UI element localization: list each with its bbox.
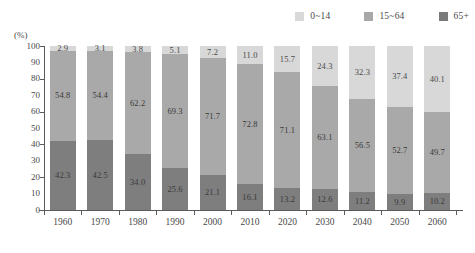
bar-value-label: 11.2 — [355, 197, 370, 206]
bar-segment-65-plus[interactable]: 3.1 — [87, 46, 113, 51]
y-axis-tick-label: 0 — [6, 206, 40, 215]
bar-segment-0-14[interactable]: 34.0 — [125, 154, 151, 210]
bar-value-label: 3.1 — [95, 44, 106, 53]
bar-value-label: 10.2 — [430, 197, 445, 206]
x-axis-tick-mark — [194, 211, 195, 215]
legend-label: 65+ — [454, 11, 469, 21]
bar-segment-15-64[interactable]: 52.7 — [387, 107, 413, 193]
bar-group-2020[interactable]: 13.271.115.7 — [274, 46, 300, 210]
bar-segment-15-64[interactable]: 54.8 — [50, 51, 76, 141]
legend-label: 15~64 — [379, 11, 404, 21]
x-axis-tick-mark — [344, 211, 345, 215]
chart-legend: 0~1415~6465+ — [0, 9, 475, 23]
x-axis-tick-mark — [119, 211, 120, 215]
x-axis-tick-mark — [456, 211, 457, 215]
legend-swatch-icon — [364, 12, 373, 21]
y-axis-tick-mark — [40, 46, 44, 47]
y-axis-unit-label: (%) — [14, 30, 28, 40]
bar-segment-15-64[interactable]: 62.2 — [125, 52, 151, 154]
bar-segment-65-plus[interactable]: 5.1 — [162, 46, 188, 54]
bar-group-1990[interactable]: 25.669.35.1 — [162, 46, 188, 210]
bar-segment-15-64[interactable]: 71.1 — [274, 72, 300, 189]
bar-segment-0-14[interactable]: 16.1 — [237, 184, 263, 210]
x-axis-tick-mark — [269, 211, 270, 215]
bar-value-label: 3.8 — [132, 45, 143, 54]
bar-segment-65-plus[interactable]: 37.4 — [387, 46, 413, 107]
bar-segment-0-14[interactable]: 42.5 — [87, 140, 113, 210]
bar-value-label: 52.7 — [392, 146, 407, 155]
x-axis-tick-mark — [81, 211, 82, 215]
bar-segment-65-plus[interactable]: 11.0 — [237, 46, 263, 64]
bar-group-2010[interactable]: 16.172.811.0 — [237, 46, 263, 210]
plot-area: 42.354.82.942.554.43.134.062.23.825.669.… — [44, 46, 456, 210]
bar-segment-65-plus[interactable]: 32.3 — [349, 46, 375, 99]
bar-value-label: 72.8 — [242, 120, 257, 129]
bar-value-label: 69.3 — [167, 107, 182, 116]
bar-segment-65-plus[interactable]: 24.3 — [312, 46, 338, 86]
population-age-structure-chart: 0~1415~6465+ (%) 1009080706050403020100 … — [0, 0, 475, 253]
bar-group-1960[interactable]: 42.354.82.9 — [50, 46, 76, 210]
y-axis-tick-mark — [40, 144, 44, 145]
bar-group-2050[interactable]: 9.952.737.4 — [387, 46, 413, 210]
bar-segment-15-64[interactable]: 69.3 — [162, 54, 188, 168]
bar-segment-15-64[interactable]: 49.7 — [424, 112, 450, 194]
bar-value-label: 49.7 — [430, 148, 445, 157]
bar-value-label: 37.4 — [392, 72, 407, 81]
bar-value-label: 40.1 — [430, 75, 445, 84]
bar-value-label: 25.6 — [167, 185, 182, 194]
y-axis-tick-label: 30 — [6, 156, 40, 165]
bar-segment-65-plus[interactable]: 7.2 — [200, 46, 226, 58]
bar-segment-15-64[interactable]: 56.5 — [349, 99, 375, 192]
legend-label: 0~14 — [310, 11, 330, 21]
bar-segment-0-14[interactable]: 9.9 — [387, 194, 413, 210]
bar-segment-65-plus[interactable]: 15.7 — [274, 46, 300, 72]
bar-value-label: 9.9 — [394, 198, 405, 207]
bar-value-label: 32.3 — [355, 68, 370, 77]
bar-segment-65-plus[interactable]: 3.8 — [125, 46, 151, 52]
bar-segment-0-14[interactable]: 42.3 — [50, 141, 76, 210]
bar-segment-0-14[interactable]: 10.2 — [424, 193, 450, 210]
bar-segment-15-64[interactable]: 63.1 — [312, 86, 338, 189]
bar-value-label: 62.2 — [130, 99, 145, 108]
legend-item-65-plus[interactable]: 65+ — [439, 11, 469, 21]
y-axis-tick-label: 70 — [6, 91, 40, 100]
bar-segment-15-64[interactable]: 72.8 — [237, 64, 263, 183]
bar-group-2060[interactable]: 10.249.740.1 — [424, 46, 450, 210]
y-axis-tick-mark — [40, 79, 44, 80]
bar-value-label: 56.5 — [355, 141, 370, 150]
bar-value-label: 12.6 — [317, 195, 332, 204]
y-axis-tick-label: 60 — [6, 107, 40, 116]
bar-group-1970[interactable]: 42.554.43.1 — [87, 46, 113, 210]
y-axis-tick-label: 20 — [6, 173, 40, 182]
legend-swatch-icon — [295, 12, 304, 21]
bar-value-label: 7.2 — [207, 48, 218, 57]
x-axis-labels: 1960197019801990200020102020203020402050… — [44, 211, 456, 231]
y-axis-tick-label: 40 — [6, 140, 40, 149]
legend-item-15-64[interactable]: 15~64 — [364, 11, 404, 21]
bar-group-2030[interactable]: 12.663.124.3 — [312, 46, 338, 210]
bar-value-label: 71.1 — [280, 126, 295, 135]
bar-value-label: 42.3 — [55, 171, 70, 180]
bar-group-2000[interactable]: 21.171.77.2 — [200, 46, 226, 210]
bar-segment-15-64[interactable]: 71.7 — [200, 58, 226, 176]
legend-item-0-14[interactable]: 0~14 — [295, 11, 330, 21]
x-axis-tick-mark — [381, 211, 382, 215]
x-axis-tick-label: 2060 — [415, 217, 459, 227]
bar-group-2040[interactable]: 11.256.532.3 — [349, 46, 375, 210]
bar-segment-0-14[interactable]: 21.1 — [200, 175, 226, 210]
bar-segment-65-plus[interactable]: 40.1 — [424, 46, 450, 112]
bar-segment-0-14[interactable]: 11.2 — [349, 192, 375, 210]
bar-segment-0-14[interactable]: 13.2 — [274, 188, 300, 210]
bar-series-container: 42.354.82.942.554.43.134.062.23.825.669.… — [44, 46, 456, 210]
bar-value-label: 16.1 — [242, 193, 257, 202]
y-axis-tick-label: 100 — [6, 42, 40, 51]
bar-segment-0-14[interactable]: 12.6 — [312, 189, 338, 210]
x-axis-tick-mark — [231, 211, 232, 215]
bar-segment-65-plus[interactable]: 2.9 — [50, 46, 76, 51]
y-axis-tick-label: 90 — [6, 58, 40, 67]
bar-segment-15-64[interactable]: 54.4 — [87, 51, 113, 140]
bar-group-1980[interactable]: 34.062.23.8 — [125, 46, 151, 210]
bar-segment-0-14[interactable]: 25.6 — [162, 168, 188, 210]
bar-value-label: 24.3 — [317, 62, 332, 71]
bar-value-label: 21.1 — [205, 188, 220, 197]
